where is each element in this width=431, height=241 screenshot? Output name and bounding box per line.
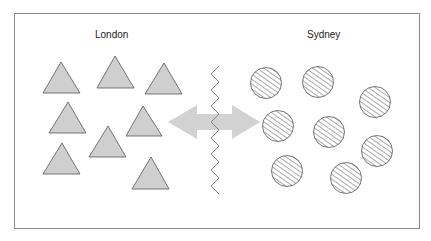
circle-6 — [362, 136, 393, 167]
circle-5 — [314, 117, 345, 148]
circle-1 — [251, 68, 282, 99]
circle-7 — [272, 156, 303, 187]
circle-3 — [360, 87, 391, 118]
london-label: London — [95, 29, 128, 40]
circle-4 — [263, 111, 294, 142]
sydney-label: Sydney — [307, 29, 340, 40]
diagram-canvas — [0, 0, 431, 241]
circle-8 — [331, 163, 362, 194]
circle-2 — [303, 67, 334, 98]
